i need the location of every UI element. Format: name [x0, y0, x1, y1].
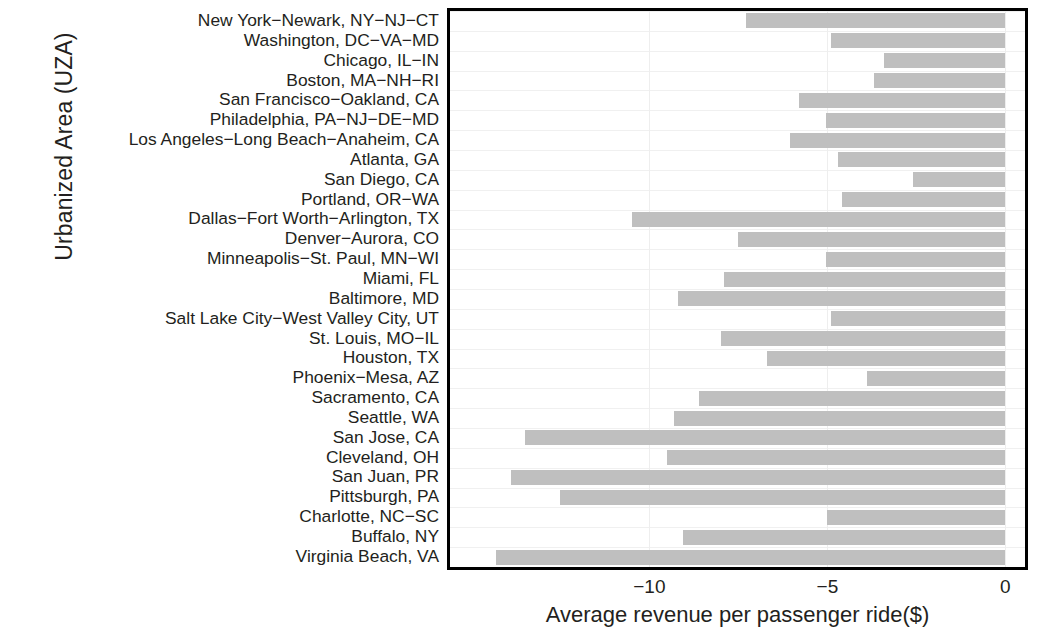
- bar: [678, 291, 1006, 306]
- y-axis-tick-label: Seattle, WA: [40, 408, 443, 428]
- bar: [831, 311, 1005, 326]
- bar: [884, 53, 1005, 68]
- horizontal-gridline: [450, 388, 1025, 389]
- horizontal-gridline: [450, 309, 1025, 310]
- y-axis-tick-label: Salt Lake City−West Valley City, UT: [40, 309, 443, 329]
- bar: [838, 152, 1005, 167]
- y-axis-tick-label: Los Angeles−Long Beach−Anaheim, CA: [40, 130, 443, 150]
- horizontal-gridline: [450, 110, 1025, 111]
- bar: [746, 13, 1006, 28]
- horizontal-gridline: [450, 150, 1025, 151]
- bar: [831, 33, 1005, 48]
- bar: [724, 272, 1005, 287]
- y-axis-tick-label: Minneapolis−St. Paul, MN−WI: [40, 249, 443, 269]
- y-axis-tick-label: Charlotte, NC−SC: [40, 507, 443, 527]
- horizontal-gridline: [450, 567, 1025, 568]
- bar: [496, 550, 1005, 565]
- y-axis-tick-label: Atlanta, GA: [40, 150, 443, 170]
- bar: [721, 331, 1006, 346]
- x-axis-title: Average revenue per passenger ride($): [447, 602, 1028, 628]
- y-axis-tick-label: Portland, OR−WA: [40, 190, 443, 210]
- horizontal-gridline: [450, 249, 1025, 250]
- y-axis-tick-label: San Juan, PR: [40, 467, 443, 487]
- plot-inner: [450, 11, 1025, 567]
- y-axis-tick-label: Baltimore, MD: [40, 289, 443, 309]
- bar: [632, 212, 1006, 227]
- horizontal-gridline: [450, 448, 1025, 449]
- y-axis-tick-label: Chicago, IL−IN: [40, 51, 443, 71]
- y-axis-tick-label: Pittsburgh, PA: [40, 487, 443, 507]
- y-axis-tick-label: Denver−Aurora, CO: [40, 229, 443, 249]
- y-axis-tick-label: Cleveland, OH: [40, 448, 443, 468]
- y-axis-tick-label: Virginia Beach, VA: [40, 547, 443, 567]
- horizontal-gridline: [450, 269, 1025, 270]
- y-axis-tick-label: New York−Newark, NY−NJ−CT: [40, 11, 443, 31]
- horizontal-gridline: [450, 468, 1025, 469]
- bar: [525, 430, 1006, 445]
- y-axis-tick-labels: New York−Newark, NY−NJ−CTWashington, DC−…: [40, 11, 443, 567]
- bar: [874, 73, 1006, 88]
- plot-area: [447, 8, 1028, 570]
- horizontal-gridline: [450, 31, 1025, 32]
- y-axis-tick-label: Philadelphia, PA−NJ−DE−MD: [40, 110, 443, 130]
- bar-chart: Urbanized Area (UZA) New York−Newark, NY…: [0, 0, 1047, 642]
- bar: [667, 450, 1005, 465]
- y-axis-tick-label: Miami, FL: [40, 269, 443, 289]
- bar: [560, 490, 1005, 505]
- bar: [699, 391, 1005, 406]
- y-axis-tick-label: San Diego, CA: [40, 170, 443, 190]
- horizontal-gridline: [450, 408, 1025, 409]
- y-axis-tick-label: Phoenix−Mesa, AZ: [40, 368, 443, 388]
- horizontal-gridline: [450, 229, 1025, 230]
- bar: [842, 192, 1006, 207]
- horizontal-gridline: [450, 368, 1025, 369]
- bar: [826, 252, 1006, 267]
- bar: [767, 351, 1006, 366]
- bar: [790, 133, 1005, 148]
- horizontal-gridline: [450, 428, 1025, 429]
- y-axis-tick-label: San Jose, CA: [40, 428, 443, 448]
- y-axis-tick-label: Houston, TX: [40, 348, 443, 368]
- horizontal-gridline: [450, 210, 1025, 211]
- horizontal-gridline: [450, 527, 1025, 528]
- vertical-gridline: [1005, 11, 1006, 567]
- horizontal-gridline: [450, 71, 1025, 72]
- horizontal-gridline: [450, 547, 1025, 548]
- bar: [867, 371, 1006, 386]
- x-axis-tick-label: 0: [1000, 576, 1011, 598]
- y-axis-tick-label: Sacramento, CA: [40, 388, 443, 408]
- bar: [674, 411, 1005, 426]
- bar: [738, 232, 1005, 247]
- y-axis-tick-label: Buffalo, NY: [40, 527, 443, 547]
- bar: [913, 172, 1006, 187]
- x-axis-tick-label: −10: [633, 576, 665, 598]
- horizontal-gridline: [450, 11, 1025, 12]
- y-axis-tick-label: Boston, MA−NH−RI: [40, 71, 443, 91]
- y-axis-tick-label: Washington, DC−VA−MD: [40, 31, 443, 51]
- horizontal-gridline: [450, 349, 1025, 350]
- horizontal-gridline: [450, 130, 1025, 131]
- bar: [683, 530, 1005, 545]
- y-axis-tick-label: Dallas−Fort Worth−Arlington, TX: [40, 209, 443, 229]
- x-axis-tick-label: −5: [817, 576, 839, 598]
- horizontal-gridline: [450, 507, 1025, 508]
- horizontal-gridline: [450, 289, 1025, 290]
- horizontal-gridline: [450, 90, 1025, 91]
- horizontal-gridline: [450, 51, 1025, 52]
- bar: [511, 470, 1006, 485]
- y-axis-tick-label: San Francisco−Oakland, CA: [40, 90, 443, 110]
- bar: [799, 93, 1006, 108]
- horizontal-gridline: [450, 329, 1025, 330]
- horizontal-gridline: [450, 488, 1025, 489]
- y-axis-tick-label: St. Louis, MO−IL: [40, 329, 443, 349]
- bar: [827, 510, 1005, 525]
- horizontal-gridline: [450, 170, 1025, 171]
- horizontal-gridline: [450, 190, 1025, 191]
- bar: [826, 113, 1006, 128]
